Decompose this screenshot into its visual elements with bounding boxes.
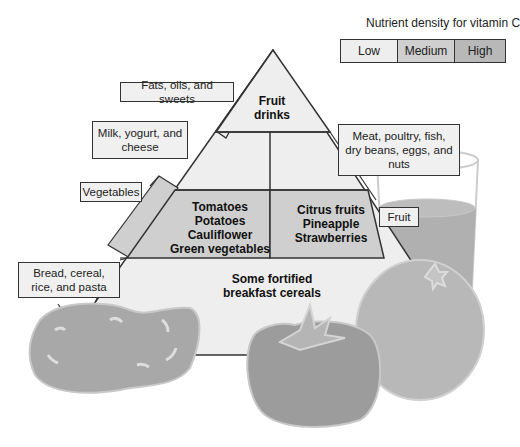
legend-medium: Medium bbox=[398, 40, 455, 62]
potato-icon bbox=[30, 304, 200, 393]
label-meat-poultry-fish: Meat, poultry, fish, dry beans, eggs, an… bbox=[338, 124, 460, 176]
legend-title: Nutrient density for vitamin C bbox=[366, 16, 520, 30]
label-milk-yogurt-cheese: Milk, yogurt, and cheese bbox=[92, 121, 188, 159]
cell-fruit-items: Citrus fruits Pineapple Strawberries bbox=[284, 203, 378, 245]
legend-low: Low bbox=[341, 40, 398, 62]
label-fats-oils-sweets: Fats, oils, and sweets bbox=[120, 82, 234, 102]
cell-breakfast-cereals: Some fortified breakfast cereals bbox=[210, 272, 334, 300]
label-bread-cereal-rice-pasta: Bread, cereal, rice, and pasta bbox=[18, 262, 120, 298]
label-fruit: Fruit bbox=[379, 207, 419, 227]
cell-fruit-drinks: Fruit drinks bbox=[244, 94, 300, 122]
legend: Low Medium High bbox=[340, 39, 506, 63]
label-vegetables: Vegetables bbox=[80, 182, 142, 202]
cell-vegetables-items: Tomatoes Potatoes Cauliflower Green vege… bbox=[168, 200, 272, 256]
legend-high: High bbox=[455, 40, 505, 62]
